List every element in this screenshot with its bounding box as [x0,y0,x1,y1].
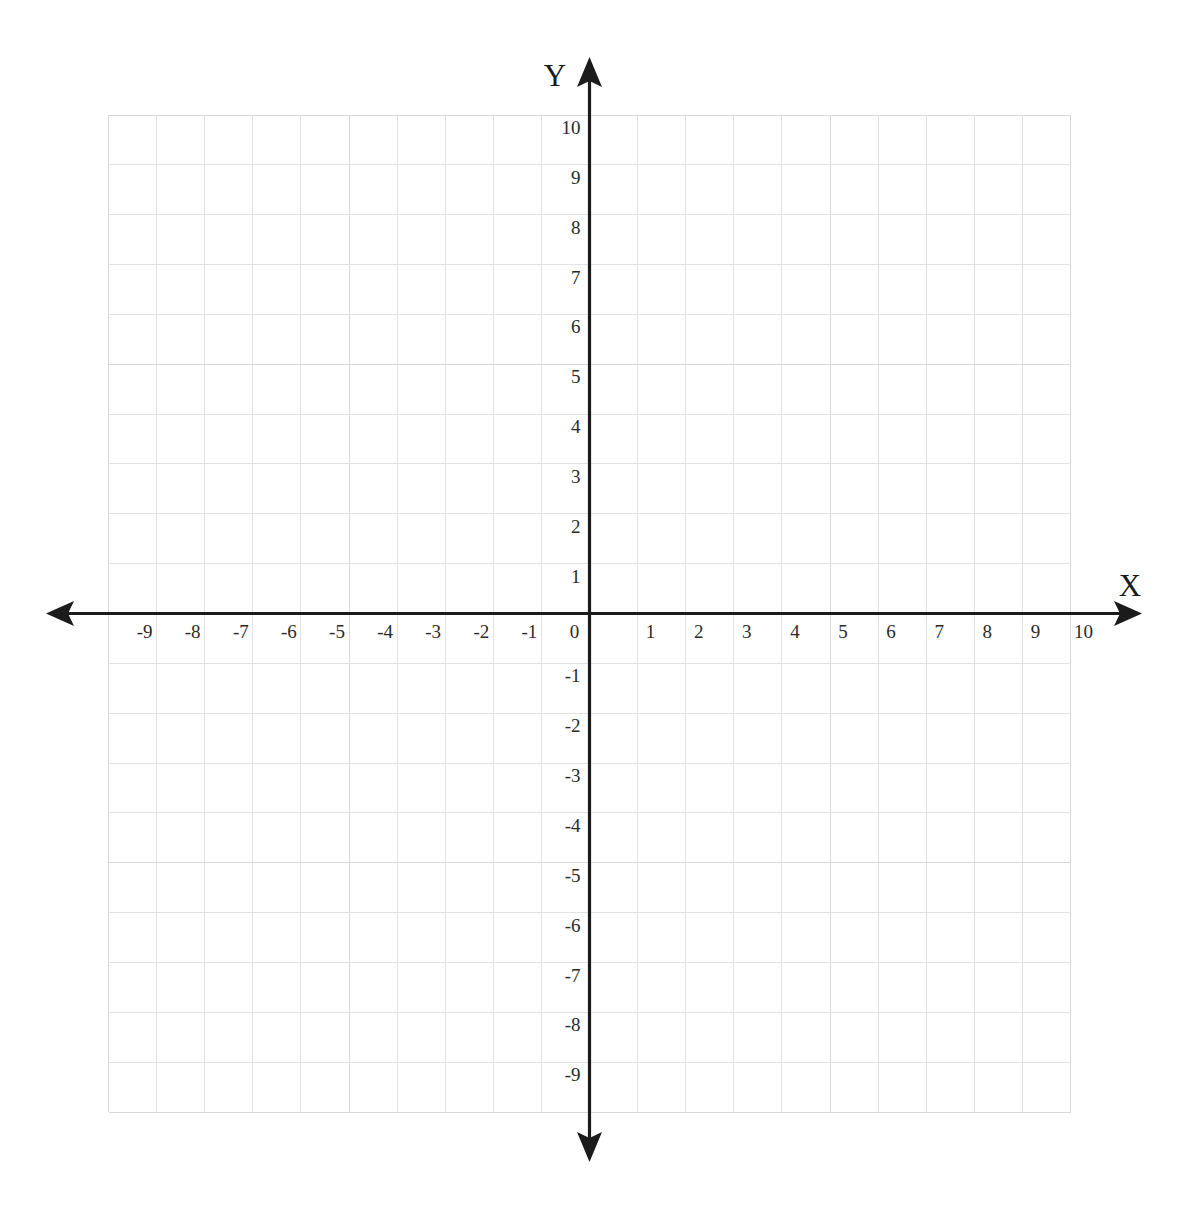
y-tick-label: 6 [571,316,581,337]
x-axis-label: X [1119,568,1141,603]
y-tick-label: -8 [565,1014,581,1035]
x-tick-label: 10 [1074,621,1093,642]
x-tick-label: -9 [137,621,153,642]
y-tick-label: 7 [571,267,581,288]
y-tick-label: -6 [565,915,581,936]
coordinate-plane-svg: -9-8-7-6-5-4-3-2-1012345678910 109876543… [0,0,1184,1225]
y-tick-label: -3 [565,765,581,786]
x-tick-label: -6 [281,621,297,642]
x-tick-label: 9 [1031,621,1041,642]
y-tick-label: 10 [562,117,581,138]
x-tick-label: -4 [377,621,393,642]
x-tick-label: 2 [694,621,704,642]
x-tick-label: -5 [329,621,345,642]
y-tick-label: 5 [571,366,581,387]
y-tick-label: 1 [571,566,581,587]
y-tick-label: 3 [571,466,581,487]
y-tick-label: 8 [571,217,581,238]
x-tick-label: 8 [983,621,993,642]
x-tick-label: -8 [185,621,201,642]
x-tick-label: -2 [473,621,489,642]
y-tick-label: 4 [571,416,581,437]
y-tick-label: -1 [565,665,581,686]
x-tick-label: 4 [790,621,800,642]
x-tick-label: 7 [934,621,944,642]
x-tick-label: -3 [425,621,441,642]
y-tick-label: -7 [565,965,581,986]
x-tick-label: 1 [646,621,656,642]
y-tick-label: 2 [571,516,581,537]
y-tick-label: -5 [565,865,581,886]
y-tick-label: -2 [565,715,581,736]
y-tick-label: 9 [571,167,581,188]
x-tick-label: -7 [233,621,249,642]
coordinate-grid-graph: -9-8-7-6-5-4-3-2-1012345678910 109876543… [0,0,1184,1225]
x-tick-label: 3 [742,621,752,642]
x-tick-label: 6 [886,621,896,642]
y-axis-label: Y [544,58,566,93]
x-tick-label: -1 [521,621,537,642]
x-tick-label: 0 [570,621,580,642]
y-tick-label: -9 [565,1064,581,1085]
x-tick-label: 5 [838,621,848,642]
y-tick-label: -4 [565,815,581,836]
